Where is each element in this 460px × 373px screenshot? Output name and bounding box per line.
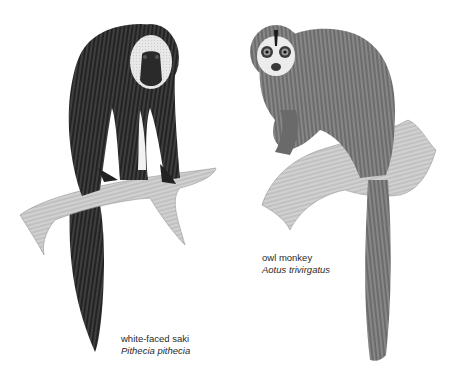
- caption-owl-monkey: owl monkey Aotus trivirgatus: [262, 252, 330, 276]
- common-name: white-faced saki: [121, 333, 190, 345]
- saki-tail: [70, 205, 104, 352]
- scientific-name: Pithecia pithecia: [121, 345, 190, 357]
- scientific-name: Aotus trivirgatus: [262, 264, 330, 276]
- illustration-canvas: [0, 0, 460, 373]
- caption-white-faced-saki: white-faced saki Pithecia pithecia: [121, 333, 190, 357]
- saki-illustration: [20, 24, 216, 352]
- owl-monkey-illustration: [250, 25, 436, 361]
- common-name: owl monkey: [262, 252, 330, 264]
- saki-branch: [20, 168, 216, 255]
- owl-tail: [365, 180, 391, 361]
- figure: white-faced saki Pithecia pithecia owl m…: [0, 0, 460, 373]
